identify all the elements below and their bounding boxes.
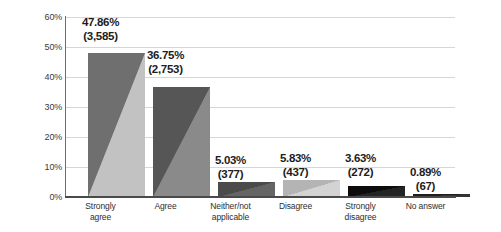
bar-shade [218,182,275,197]
bar-disagree [283,180,340,197]
data-label-no-answer: 0.89% (67) [385,166,466,193]
y-tick-40: 40% [2,72,62,82]
y-axis-line [65,16,66,198]
y-tick-60: 60% [2,12,62,22]
data-label-agree: 36.75% (2,753) [125,49,206,76]
bar-chart: 60% 50% 40% 30% 20% 10% 0% 47.86% (3,585… [0,0,501,232]
y-tick-20: 20% [2,132,62,142]
y-tick-10: 10% [2,162,62,172]
category-label-no-answer: No answer [383,201,468,212]
data-label-count: (2,753) [125,63,206,77]
category-label-line2: applicable [188,212,273,223]
y-tick-0: 0% [2,192,62,202]
data-label-pct: 3.63% [320,152,401,166]
category-label-line1: No answer [383,201,468,212]
data-label-strongly-agree: 47.86% (3,585) [60,16,141,43]
y-tick-50: 50% [2,42,62,52]
category-label-line2: disagree [318,212,403,223]
data-label-pct: 36.75% [125,49,206,63]
x-axis-line [65,196,456,198]
data-label-pct: 0.89% [385,166,466,180]
data-label-count: (3,585) [60,30,141,44]
gridline-50 [66,47,455,48]
bar-shade [283,180,340,197]
y-tick-30: 30% [2,102,62,112]
data-label-pct: 47.86% [60,16,141,30]
bar-neither-not-applicable [218,182,275,197]
category-label-line2: agree [58,212,143,223]
data-label-count: (67) [385,180,466,194]
y-axis-ticks: 60% 50% 40% 30% 20% 10% 0% [0,0,62,232]
